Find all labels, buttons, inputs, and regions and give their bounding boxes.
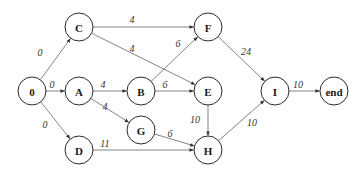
node-label: H xyxy=(204,145,213,157)
edge-h-i xyxy=(219,101,265,141)
edge-weight-label: 4 xyxy=(103,101,108,112)
node-label: C xyxy=(75,22,83,34)
edge-g-h xyxy=(154,134,194,146)
node-0: 0 xyxy=(18,77,46,105)
edge-weight-label: 11 xyxy=(100,138,109,149)
node-i: I xyxy=(261,77,289,105)
edge-weight-label: 10 xyxy=(293,79,303,90)
node-h: H xyxy=(194,136,222,164)
edge-weight-label: 10 xyxy=(190,114,200,125)
edge-weight-label: 0 xyxy=(38,47,43,58)
edge-weight-label: 24 xyxy=(241,46,251,57)
edge-weight-label: 6 xyxy=(176,38,181,49)
edge-weight-label: 4 xyxy=(130,43,135,54)
node-c: C xyxy=(65,13,93,41)
node-label: I xyxy=(273,86,277,98)
edge-0-c xyxy=(40,39,70,80)
node-b: B xyxy=(127,77,155,105)
node-label: B xyxy=(137,86,145,98)
node-label: 0 xyxy=(29,86,35,98)
node-e: E xyxy=(194,77,222,105)
node-label: A xyxy=(75,86,83,98)
node-label: D xyxy=(75,145,83,157)
node-f: F xyxy=(194,13,222,41)
edge-a-g xyxy=(91,98,129,122)
node-label: G xyxy=(137,125,146,137)
node-label: end xyxy=(325,86,342,98)
edge-weight-label: 10 xyxy=(247,117,257,128)
network-diagram: 00044446611610241010 0CADBGFEHIend xyxy=(0,0,364,169)
node-label: E xyxy=(204,86,211,98)
edge-f-i xyxy=(218,37,264,81)
node-label: F xyxy=(205,22,212,34)
node-a: A xyxy=(65,77,93,105)
node-g: G xyxy=(127,116,155,144)
edge-weight-label: 0 xyxy=(43,119,48,130)
node-d: D xyxy=(65,136,93,164)
edge-weight-label: 0 xyxy=(50,79,55,90)
edge-weight-label: 4 xyxy=(101,79,106,90)
node-end: end xyxy=(320,77,348,105)
edge-weight-label: 6 xyxy=(163,79,168,90)
edge-weight-label: 6 xyxy=(168,128,173,139)
edge-weight-label: 4 xyxy=(130,14,135,25)
